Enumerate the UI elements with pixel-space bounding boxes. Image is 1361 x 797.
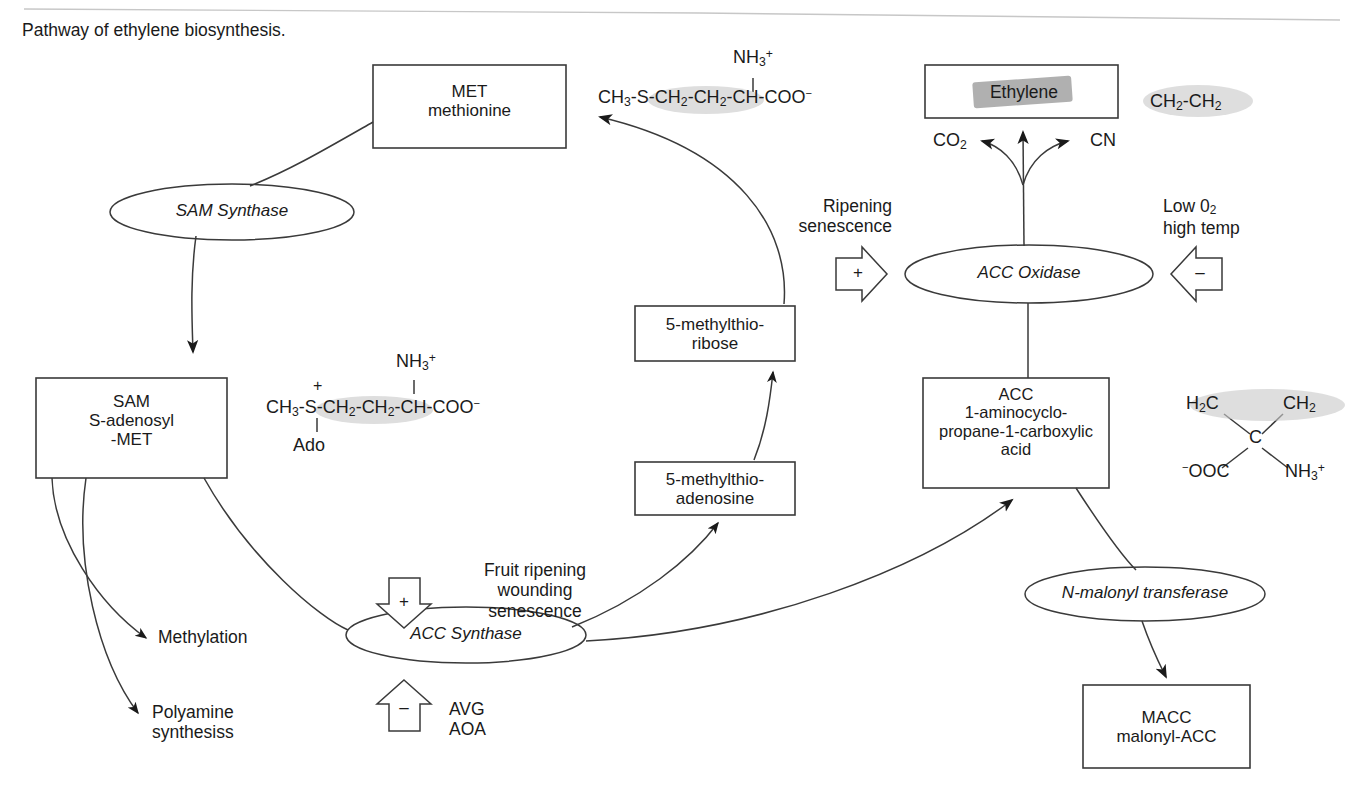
label-box-methylthioribose: 5-methylthio- ribose xyxy=(635,315,795,353)
edge-acc-to-n-malonyl-transferase xyxy=(1076,488,1136,570)
label-box-methylthioadenosine: 5-methylthio- adenosine xyxy=(635,470,795,508)
formula-sam-chain: CH3-S-CH2-CH2-CH-COO− xyxy=(266,398,480,418)
label-box-acc: ACC 1-aminocyclo- propane-1-carboxylic a… xyxy=(920,385,1112,459)
edge-n-malonyl-transferase-to-macc xyxy=(1142,621,1166,677)
sign-acc-oxidase-negative: – xyxy=(1183,263,1217,283)
formula-sam-s-charge: + xyxy=(313,378,322,394)
ethylene-word: Ethylene xyxy=(990,82,1058,102)
formula-ethylene: CH2-CH2 xyxy=(1150,92,1222,112)
mtadenosine-line2: adenosine xyxy=(635,489,795,508)
label-acc-oxidase-negative-factors: Low 02 high temp xyxy=(1163,196,1313,238)
label-methylation: Methylation xyxy=(158,627,358,647)
edge-branch-co2 xyxy=(982,141,1023,185)
formula-sam-nh3: NH3+ xyxy=(396,352,436,372)
label-box-met: MET methionine xyxy=(373,82,566,120)
edge-acc-synthase-to-acc xyxy=(586,500,1012,641)
label-box-sam: SAM S-adenosyl -MET xyxy=(36,392,227,449)
macc-line1: MACC xyxy=(1083,708,1250,727)
acc-line3: propane-1-carboxylic xyxy=(920,422,1112,440)
label-sam-synthase: SAM Synthase xyxy=(110,202,354,221)
sam-line2: S-adenosyl xyxy=(36,411,227,430)
formula-sam-ado: Ado xyxy=(293,436,325,454)
low-o2-line: Low 02 xyxy=(1163,196,1313,218)
acc-line2: 1-aminocyclo- xyxy=(920,403,1112,421)
label-acc-oxidase: ACC Oxidase xyxy=(905,264,1153,283)
edge-branch-cn xyxy=(1023,141,1068,185)
label-acc-synthase-negative-factors: AVG AOA xyxy=(449,699,589,740)
macc-line2: malonyl-ACC xyxy=(1083,727,1250,746)
edge-sam-to-acc-synthase xyxy=(204,478,348,630)
sign-acc-oxidase-positive: + xyxy=(841,263,875,283)
formula-acc-h2c: H2C xyxy=(1186,394,1219,414)
met-line1: MET xyxy=(373,82,566,101)
formula-acc-ooc: −OOC xyxy=(1182,462,1230,480)
formula-acc-nh3: NH3+ xyxy=(1285,462,1325,482)
sign-acc-synthase-positive: + xyxy=(384,592,424,612)
mtribose-line1: 5-methylthio- xyxy=(635,315,795,334)
acc-line4: acid xyxy=(920,440,1112,458)
edge-met-to-sam-synthase xyxy=(250,122,373,186)
edge-sam-to-methylation xyxy=(52,478,146,638)
sam-line3: -MET xyxy=(36,430,227,449)
scan-edge-line xyxy=(24,9,1340,20)
mtadenosine-line1: 5-methylthio- xyxy=(635,470,795,489)
met-line2: methionine xyxy=(373,101,566,120)
edge-sam-to-polyamine xyxy=(83,478,138,713)
label-box-ethylene: Ethylene xyxy=(979,82,1069,103)
label-polyamine-synthesis: Polyamine synthesiss xyxy=(152,702,352,743)
diagram-canvas: Pathway of ethylene biosynthesis. xyxy=(0,0,1361,797)
edge-mtribose-to-met xyxy=(600,117,784,304)
label-acc-synthase: ACC Synthase xyxy=(346,625,586,644)
formula-bond-ticks xyxy=(317,78,753,432)
mtribose-line2: ribose xyxy=(635,334,795,353)
formula-acc-ch2: CH2 xyxy=(1283,394,1316,414)
label-co2: CO2 xyxy=(933,131,967,151)
label-n-malonyl-transferase: N-malonyl transferase xyxy=(1025,584,1265,603)
formula-acc-center-c: C xyxy=(1249,428,1262,446)
sign-acc-synthase-negative: – xyxy=(384,698,424,718)
label-acc-synthase-positive-factors: Fruit ripening wounding senescence xyxy=(430,560,640,621)
formula-methionine-chain: CH3-S-CH2-CH2-CH-COO− xyxy=(598,88,812,108)
label-box-macc: MACC malonyl-ACC xyxy=(1083,708,1250,746)
label-acc-oxidase-positive-factors: Ripening senescence xyxy=(760,196,892,237)
acc-line1: ACC xyxy=(920,385,1112,403)
sam-line1: SAM xyxy=(36,392,227,411)
edge-sam-synthase-to-sam xyxy=(192,236,196,352)
edge-acc-oxidase-to-ethylene xyxy=(1023,132,1024,246)
formula-methionine-nh3: NH3+ xyxy=(733,48,773,68)
edge-mtadenosine-to-mtribose xyxy=(754,372,773,460)
label-cn: CN xyxy=(1090,131,1116,149)
